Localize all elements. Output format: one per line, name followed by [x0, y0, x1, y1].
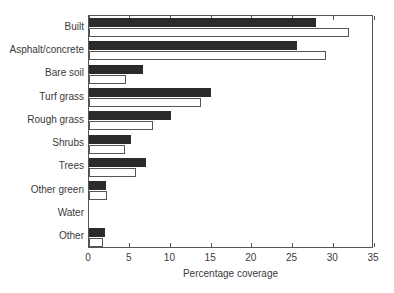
x-axis-tick: [170, 243, 171, 247]
x-axis-title: Percentage coverage: [88, 268, 373, 279]
category-label: Shrubs: [0, 137, 84, 148]
bar-dark: [89, 158, 146, 167]
bar-dark: [89, 41, 297, 50]
x-tick-label: 30: [312, 252, 352, 263]
category-label: Trees: [0, 160, 84, 171]
bar-light: [89, 75, 126, 84]
x-tick-label: 20: [231, 252, 271, 263]
x-axis-tick: [333, 243, 334, 247]
x-axis-tick: [211, 243, 212, 247]
category-label: Asphalt/concrete: [0, 44, 84, 55]
category-label: Built: [0, 21, 84, 32]
x-axis-tick: [292, 243, 293, 247]
bar-dark: [89, 135, 131, 144]
x-axis-tick: [129, 243, 130, 247]
category-label: Water: [0, 207, 84, 218]
x-tick-label: 25: [272, 252, 312, 263]
category-label: Turf grass: [0, 91, 84, 102]
bar-light: [89, 238, 103, 247]
x-tick-label: 10: [149, 252, 189, 263]
bar-dark: [89, 65, 143, 74]
category-label: Rough grass: [0, 114, 84, 125]
bar-light: [89, 121, 153, 130]
category-label: Other green: [0, 184, 84, 195]
x-tick-label: 0: [68, 252, 108, 263]
category-label: Bare soil: [0, 67, 84, 78]
x-axis-tick: [333, 16, 334, 20]
x-axis-tick: [374, 16, 375, 20]
bar-dark: [89, 228, 105, 237]
bar-dark: [89, 18, 316, 27]
category-label: Other: [0, 230, 84, 241]
bar-light: [89, 145, 125, 154]
bar-light: [89, 191, 107, 200]
bar-light: [89, 28, 349, 37]
x-axis-tick: [374, 243, 375, 247]
x-tick-label: 35: [353, 252, 393, 263]
bar-chart-figure: BuiltAsphalt/concreteBare soilTurf grass…: [0, 0, 394, 293]
bar-light: [89, 168, 136, 177]
x-axis-tick: [251, 243, 252, 247]
bar-dark: [89, 181, 106, 190]
bar-light: [89, 51, 326, 60]
bar-dark: [89, 88, 211, 97]
x-tick-label: 15: [190, 252, 230, 263]
bar-dark: [89, 111, 171, 120]
x-tick-label: 5: [109, 252, 149, 263]
plot-area: [88, 15, 373, 248]
bar-light: [89, 98, 201, 107]
